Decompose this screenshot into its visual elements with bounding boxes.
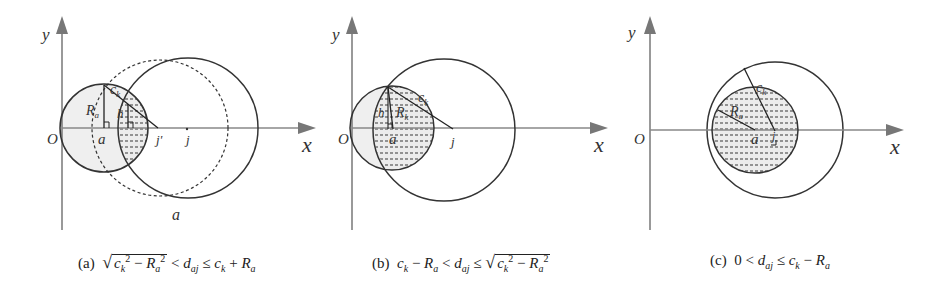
caption-b: (b) ck − Ra < daj ≤ √ck2 − Ra2 bbox=[372, 252, 550, 274]
h-label-b: h bbox=[378, 105, 385, 120]
point-a-label-a: a bbox=[98, 131, 106, 147]
ck-label-a: ck bbox=[110, 82, 121, 99]
origin-label-b: O bbox=[338, 131, 349, 147]
origin-label-c: O bbox=[634, 131, 645, 147]
y-label-a: y bbox=[40, 25, 50, 44]
caption-a-label: (a) bbox=[78, 255, 95, 271]
y-arrow-icon-a bbox=[56, 16, 68, 34]
caption-b-label: (b) bbox=[372, 255, 390, 271]
point-a-label-b: a bbox=[389, 131, 397, 147]
point-j-label-b: j bbox=[449, 134, 455, 149]
x-label-a: x bbox=[301, 132, 312, 157]
x-label-b: x bbox=[593, 132, 604, 157]
circle-a-label: a bbox=[172, 206, 180, 223]
caption-a: (a) √ck2 − Ra2 < daj ≤ ck + Ra bbox=[78, 252, 256, 274]
point-j-label-a: j bbox=[184, 132, 190, 147]
panel-c: y O x a j Ra ck bbox=[626, 16, 904, 230]
y-arrow-icon-b bbox=[346, 16, 358, 34]
panel-a: y O x a j' j a Ra h ck bbox=[40, 16, 316, 230]
ck-label-b: ck bbox=[418, 90, 429, 107]
caption-c-label: (c) bbox=[710, 252, 727, 268]
caption-c: (c) 0 < daj ≤ ck − Ra bbox=[710, 252, 830, 271]
y-label-c: y bbox=[626, 23, 636, 42]
x-label-c: x bbox=[889, 134, 900, 159]
panel-b: y O x a j h Rk ck bbox=[330, 16, 608, 230]
point-jprime-label: j' bbox=[154, 132, 163, 147]
point-a-label-c: a bbox=[751, 131, 759, 147]
h-label-a: h bbox=[117, 106, 124, 121]
origin-label-a: O bbox=[47, 131, 58, 147]
y-label-b: y bbox=[330, 25, 340, 44]
y-arrow-icon-c bbox=[644, 16, 656, 34]
